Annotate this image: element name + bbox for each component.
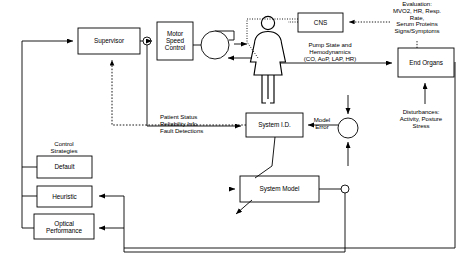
- block-label-supervisor[interactable]: Supervisor: [94, 37, 124, 44]
- patient-figure-glyph: [251, 16, 286, 103]
- node-summing-junction: [338, 118, 358, 138]
- block-label-default[interactable]: Default: [55, 163, 75, 170]
- annotation-pump-state-hemodynamics: Pump State and Hemodynamics (CO, AoP, LA…: [304, 42, 356, 62]
- link-systemid-to-systemmodel: [255, 137, 275, 178]
- block-label-system-model[interactable]: System Model: [260, 185, 300, 192]
- annotation-model-error: Model Error: [314, 117, 330, 131]
- node-model-output: [341, 185, 349, 193]
- annotation-patient-status: Patient Status Reliability Info Fault De…: [160, 114, 203, 134]
- block-label-heuristic[interactable]: Heuristic: [52, 193, 76, 200]
- block-label-optical-performance[interactable]: Optical Performance: [46, 219, 82, 233]
- annotation-control-strategies: Control Strategies: [51, 141, 78, 155]
- block-label-end-organs[interactable]: End Organs: [409, 59, 443, 66]
- block-label-system-id[interactable]: System I.D.: [258, 121, 290, 128]
- pump-rotor-circle: [201, 31, 229, 59]
- block-label-cns[interactable]: CNS: [314, 19, 327, 26]
- block-diagram-canvas: Supervisor Motor Speed Control CNS End O…: [0, 0, 466, 267]
- annotation-disturbances: Disturbances: Activity, Posture Stress: [400, 109, 442, 129]
- node-supervisor-junction: [143, 37, 151, 45]
- annotation-evaluation: Evaluation: MVO2, HR, Resp. Rate, Serum …: [393, 1, 442, 35]
- block-label-motor-speed-control[interactable]: Motor Speed Control: [165, 30, 185, 52]
- outer-return-path: [124, 62, 455, 248]
